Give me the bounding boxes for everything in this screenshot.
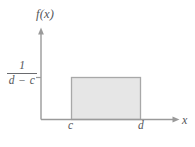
uniform-density-rectangle (72, 78, 141, 120)
x-tick-label-d: d (138, 120, 144, 132)
uniform-distribution-figure: f(x) x 1 d − c c d (0, 0, 195, 147)
height-value-label: 1 d − c (7, 60, 37, 86)
y-axis-arrowhead (38, 28, 44, 35)
x-axis-arrowhead (173, 117, 180, 123)
x-axis-label: x (182, 114, 187, 126)
fraction-denominator: d − c (7, 74, 37, 87)
fraction-numerator: 1 (7, 60, 37, 73)
x-tick-label-c: c (68, 120, 73, 132)
y-axis-label: f(x) (36, 8, 54, 21)
